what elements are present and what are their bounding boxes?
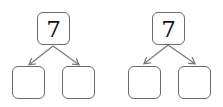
- whole-box: 7: [152, 12, 185, 45]
- part-box-left[interactable]: [12, 66, 45, 99]
- number-bond-2: 7: [112, 0, 223, 107]
- number-bond-1: 7: [0, 0, 112, 107]
- whole-box: 7: [37, 12, 70, 45]
- part-box-right[interactable]: [62, 66, 95, 99]
- part-box-left[interactable]: [128, 66, 161, 99]
- whole-value: 7: [161, 16, 176, 42]
- whole-value: 7: [46, 16, 61, 42]
- part-box-right[interactable]: [178, 66, 211, 99]
